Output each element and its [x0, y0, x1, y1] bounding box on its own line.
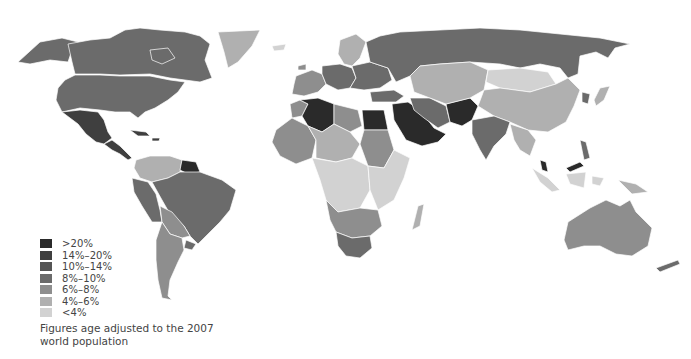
legend-swatch: [40, 274, 52, 283]
legend-item: 6%–8%: [40, 284, 112, 295]
legend-swatch: [40, 262, 52, 271]
region-turkey: [370, 90, 404, 102]
legend-label: <4%: [62, 307, 87, 318]
region-malaysia: [540, 160, 584, 172]
legend-label: 6%–8%: [62, 284, 99, 295]
region-india: [472, 116, 510, 160]
legend-label: 8%–10%: [62, 273, 106, 284]
map-footnote: Figures age adjusted to the 2007 world p…: [40, 322, 260, 348]
footnote-line-1: Figures age adjusted to the 2007: [40, 322, 260, 335]
region-uruguay: [184, 240, 196, 250]
legend-item: 10%–14%: [40, 261, 112, 272]
legend-item: 8%–10%: [40, 273, 112, 284]
legend-swatch: [40, 297, 52, 306]
region-philippines: [580, 140, 590, 160]
region-mexico: [62, 110, 112, 144]
legend-label: 4%–6%: [62, 296, 99, 307]
legend-item: <4%: [40, 307, 112, 318]
legend-label: 10%–14%: [62, 261, 112, 272]
legend-swatch: [40, 251, 52, 260]
legend-item: 14%–20%: [40, 250, 112, 261]
region-central-america: [104, 140, 132, 160]
region-greenland: [218, 30, 260, 68]
region-iceland: [272, 44, 286, 51]
region-png: [618, 180, 648, 194]
region-japan: [594, 86, 610, 106]
legend-item: 4%–6%: [40, 296, 112, 307]
legend-label: 14%–20%: [62, 250, 112, 261]
legend-swatch: [40, 308, 52, 317]
region-egypt: [362, 110, 388, 130]
map-legend: >20% 14%–20% 10%–14% 8%–10% 6%–8% 4%–6% …: [40, 238, 112, 319]
region-new-zealand: [656, 260, 680, 272]
legend-label: >20%: [62, 238, 93, 249]
region-korea: [582, 92, 590, 104]
footnote-line-2: world population: [40, 335, 260, 348]
legend-swatch: [40, 285, 52, 294]
region-alaska: [18, 38, 78, 64]
region-indonesia: [532, 168, 604, 192]
region-madagascar: [412, 204, 424, 230]
region-canada: [68, 28, 212, 82]
region-western-europe: [292, 64, 326, 96]
region-scandinavia: [338, 34, 366, 66]
region-central-africa: [312, 158, 370, 212]
legend-swatch: [40, 239, 52, 248]
legend-item: >20%: [40, 238, 112, 249]
region-caribbean: [130, 130, 160, 141]
region-australia: [564, 200, 652, 256]
